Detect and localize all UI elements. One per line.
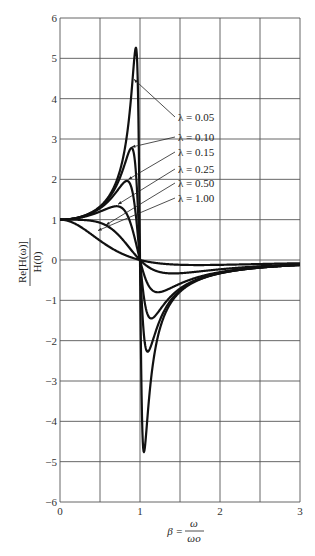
y-tick-label: −5	[45, 456, 57, 468]
x-tick-label: 3	[297, 505, 303, 517]
x-axis-label-lhs: β =	[166, 525, 183, 537]
y-tick-label: −6	[45, 496, 57, 508]
lambda-label: λ = 0.15	[178, 146, 215, 158]
y-axis-label-numerator: Re[H(ω)]	[16, 241, 29, 283]
lambda-annotations: λ = 0.05λ = 0.10λ = 0.15λ = 0.25λ = 0.50…	[98, 79, 215, 230]
y-tick-label: 0	[52, 254, 58, 266]
y-tick-label: −1	[45, 294, 57, 306]
y-tick-label: 3	[52, 133, 58, 145]
grid-lines	[60, 18, 300, 502]
y-tick-label: 4	[52, 93, 58, 105]
x-axis-label-denominator: ωo	[187, 532, 201, 544]
x-axis-label-numerator: ω	[190, 517, 198, 529]
x-axis-label: β = ω ωo	[166, 517, 204, 544]
y-tick-label: 5	[52, 52, 58, 64]
frequency-response-chart: −6−5−4−3−2−10123456 0123 λ = 0.05λ = 0.1…	[0, 0, 315, 556]
y-tick-label: −2	[45, 335, 57, 347]
y-tick-label: 6	[52, 12, 58, 24]
lambda-label: λ = 0.50	[178, 177, 215, 189]
y-axis-label: Re[H(ω)] H(0)	[16, 238, 44, 286]
x-tick-label: 1	[137, 505, 143, 517]
y-tick-label: −4	[45, 415, 57, 427]
lambda-label: λ = 0.10	[178, 131, 215, 143]
x-tick-label: 2	[217, 505, 223, 517]
y-tick-label: 2	[52, 173, 58, 185]
x-tick-label: 0	[57, 505, 63, 517]
lambda-label: λ = 0.05	[178, 111, 215, 123]
y-tick-label: 1	[52, 214, 58, 226]
y-axis-ticks: −6−5−4−3−2−10123456	[45, 12, 57, 508]
x-axis-ticks: 0123	[57, 505, 303, 517]
lambda-label: λ = 0.25	[178, 163, 215, 175]
y-axis-label-denominator: H(0)	[31, 251, 44, 272]
lambda-label: λ = 1.00	[178, 192, 215, 204]
annotation-leader	[118, 169, 175, 204]
y-tick-label: −3	[45, 375, 57, 387]
